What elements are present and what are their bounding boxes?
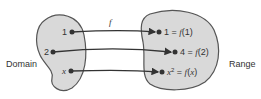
domain-point-1: 1 [62, 27, 67, 37]
range-point-4: 4 = f(2) [180, 47, 209, 57]
function-mapping-diagram: Domain Range f 1 2 x 1 = f(1) 4 = f(2) x… [0, 0, 261, 99]
range-label: Range [229, 59, 256, 69]
arrow-1 [72, 31, 155, 33]
arrow-x [71, 70, 158, 72]
domain-point-x: x [61, 66, 66, 76]
range-point-1: 1 = f(1) [164, 27, 193, 37]
range-point-x2: x2 = f(x) [166, 67, 197, 77]
function-label: f [109, 17, 113, 27]
domain-point-2: 2 [44, 47, 49, 57]
domain-label: Domain [6, 59, 37, 69]
